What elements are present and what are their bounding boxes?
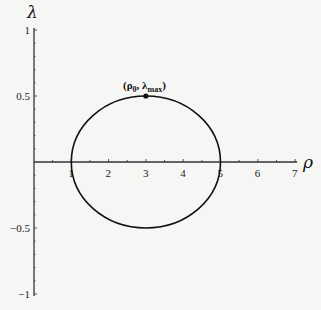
- y-axis-title: λ: [26, 2, 38, 22]
- max-point-annotation: (ρ0, λmax): [123, 79, 166, 94]
- y-tick-label: −0.5: [10, 222, 30, 234]
- x-tick-label: 7: [292, 167, 298, 179]
- y-tick-label: 1: [25, 24, 31, 36]
- x-tick-label: 4: [180, 167, 186, 179]
- max-point-marker: [143, 93, 148, 98]
- y-tick-label: −1: [18, 288, 30, 300]
- x-tick-label: 6: [255, 167, 261, 179]
- x-tick-label: 2: [106, 167, 112, 179]
- chart: 123456710.5−0.5−1 λ ρ (ρ0, λmax): [0, 0, 321, 310]
- x-tick-label: 3: [143, 167, 149, 179]
- y-tick-label: 0.5: [16, 90, 30, 102]
- x-axis-title: ρ: [302, 152, 313, 172]
